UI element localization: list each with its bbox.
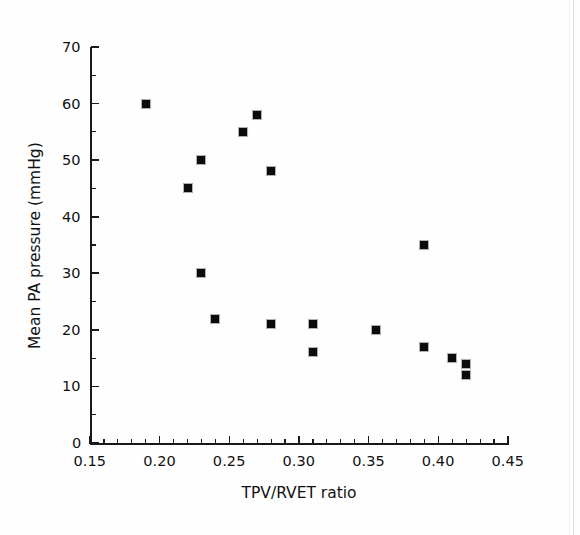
data-point-marker [239,128,247,136]
x-tick-minor [284,439,285,444]
x-tick-minor [326,439,327,444]
x-tick-minor [173,439,174,444]
data-point-marker [448,354,456,362]
x-tick-major [507,436,509,444]
data-point-marker [462,371,470,379]
x-tick-minor [117,439,118,444]
y-tick-label: 50 [62,152,81,168]
x-tick-label: 0.15 [74,453,107,469]
data-point-marker [197,269,205,277]
data-point-marker [267,320,275,328]
x-tick-minor [410,439,411,444]
x-tick-minor [131,439,132,444]
data-point-marker [420,241,428,249]
y-tick-major [91,103,99,105]
x-tick-minor [424,439,425,444]
y-tick-major [91,329,99,331]
y-tick-label: 20 [62,322,81,338]
x-tick-major [298,436,300,444]
x-tick-minor [452,439,453,444]
scatter-plot: 0.150.200.250.300.350.400.45010203040506… [0,0,580,535]
x-tick-minor [354,439,355,444]
data-point-marker [309,320,317,328]
y-tick-label: 40 [62,209,81,225]
y-tick-major [91,272,99,274]
y-tick-major [91,386,99,388]
data-point-marker [372,326,380,334]
x-tick-minor [480,439,481,444]
y-tick-minor [91,358,96,359]
data-point-marker [184,184,192,192]
y-tick-major [91,159,99,161]
x-tick-label: 0.20 [143,453,176,469]
x-tick-major [159,436,161,444]
x-tick-minor [215,439,216,444]
x-tick-minor [493,439,494,444]
y-axis-label: Mean PA pressure (mmHg) [26,142,44,349]
x-tick-minor [187,439,188,444]
x-tick-minor [312,439,313,444]
x-tick-minor [340,439,341,444]
x-tick-label: 0.35 [352,453,385,469]
x-tick-label: 0.40 [422,453,455,469]
data-point-marker [253,111,261,119]
y-tick-label: 60 [62,96,81,112]
y-tick-minor [91,414,96,415]
x-tick-major [438,436,440,444]
x-tick-label: 0.30 [283,453,316,469]
data-point-marker [267,167,275,175]
y-tick-minor [91,131,96,132]
x-tick-minor [145,439,146,444]
data-point-marker [142,100,150,108]
y-tick-major [91,216,99,218]
data-point-marker [420,343,428,351]
x-tick-minor [396,439,397,444]
y-tick-minor [91,301,96,302]
figure-page: 0.150.200.250.300.350.400.45010203040506… [0,0,580,535]
x-tick-minor [201,439,202,444]
x-tick-minor [382,439,383,444]
x-tick-major [368,436,370,444]
y-tick-label: 10 [62,378,81,394]
data-point-marker [309,348,317,356]
data-point-marker [197,156,205,164]
x-tick-label: 0.25 [213,453,246,469]
x-tick-minor [466,439,467,444]
x-tick-major [229,436,231,444]
x-tick-minor [257,439,258,444]
x-tick-minor [243,439,244,444]
y-tick-major [91,442,99,444]
y-tick-minor [91,188,96,189]
x-tick-minor [271,439,272,444]
x-tick-minor [103,439,104,444]
y-tick-minor [91,75,96,76]
y-tick-minor [91,244,96,245]
x-tick-label: 0.45 [492,453,525,469]
x-axis-label: TPV/RVET ratio [242,484,357,502]
y-tick-label: 30 [62,265,81,281]
data-point-marker [211,315,219,323]
y-tick-major [91,46,99,48]
y-tick-label: 70 [62,39,81,55]
y-tick-label: 0 [72,435,81,451]
data-point-marker [462,360,470,368]
